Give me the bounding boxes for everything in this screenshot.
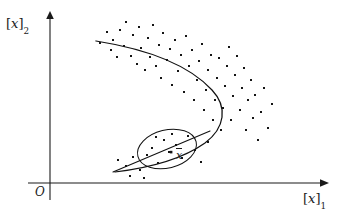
data-point (136, 63, 138, 65)
data-point (216, 77, 218, 79)
data-point (132, 156, 134, 158)
data-point (207, 141, 209, 143)
data-point (191, 49, 193, 51)
data-point (263, 87, 265, 89)
data-point (116, 56, 118, 58)
data-point (132, 34, 134, 36)
data-point (234, 74, 236, 76)
data-point (210, 54, 212, 56)
data-point (119, 29, 121, 31)
data-point (243, 67, 245, 69)
data-point (125, 21, 127, 23)
mean-point-group (170, 151, 173, 154)
y-axis-label: [x]2 (6, 17, 29, 33)
data-point (168, 151, 170, 153)
data-point (271, 103, 273, 105)
data-point (171, 84, 173, 86)
data-point (149, 56, 151, 58)
data-point (117, 159, 119, 161)
data-point (125, 165, 127, 167)
data-point (222, 107, 224, 109)
data-point (220, 129, 222, 131)
data-point (112, 39, 114, 41)
data-point (177, 70, 179, 72)
data-point (205, 89, 207, 91)
data-point (166, 59, 168, 61)
data-point (162, 32, 164, 34)
data-point (218, 57, 220, 59)
x-axis-label-bracket-close: ] (315, 191, 320, 206)
data-point (212, 119, 214, 121)
data-point (236, 55, 238, 57)
data-point (106, 31, 108, 33)
data-point (158, 44, 160, 46)
data-point (160, 77, 162, 79)
data-point (267, 127, 269, 129)
x-axis-label: [x]1 (303, 192, 326, 208)
data-point (183, 91, 185, 93)
data-point (214, 99, 216, 101)
data-point (130, 55, 132, 57)
data-point (174, 39, 176, 41)
data-point (140, 47, 142, 49)
tangent-line (113, 131, 210, 172)
y-axis-arrowhead (46, 11, 54, 19)
data-point (196, 79, 198, 81)
data-points-layer (99, 21, 273, 179)
mean-point-label: x (176, 148, 182, 161)
data-point (99, 42, 101, 44)
data-point (224, 85, 226, 87)
data-point (207, 69, 209, 71)
data-point (123, 45, 125, 47)
data-point (228, 46, 230, 48)
data-point (194, 149, 196, 151)
data-point (175, 144, 177, 146)
data-point (144, 69, 146, 71)
data-point (247, 99, 249, 101)
y-axis-label-bracket-close: ] (18, 16, 23, 31)
data-point (203, 109, 205, 111)
mean-point-marker (170, 151, 173, 154)
data-point (187, 135, 189, 137)
origin-label: O (35, 186, 45, 198)
data-point (254, 94, 256, 96)
data-point (193, 99, 195, 101)
data-point (155, 136, 157, 138)
data-point (151, 147, 153, 149)
data-point (129, 175, 131, 177)
data-point (110, 49, 112, 51)
x-axis-arrowhead (320, 179, 329, 187)
data-point (146, 154, 148, 156)
x-axis-label-subscript: 1 (321, 201, 327, 211)
data-point (230, 119, 232, 121)
data-point (198, 60, 200, 62)
data-point (245, 129, 247, 131)
y-axis-label-subscript: 2 (24, 26, 30, 36)
scatter-plot-svg (0, 0, 345, 213)
data-point (138, 26, 140, 28)
data-point (155, 65, 157, 67)
axes-group (28, 11, 329, 200)
data-point (147, 37, 149, 39)
data-point (139, 169, 141, 171)
data-point (200, 161, 202, 163)
data-point (188, 65, 190, 67)
data-point (241, 87, 243, 89)
data-point (185, 35, 187, 37)
data-point (171, 133, 173, 135)
data-point (250, 79, 252, 81)
data-point (169, 48, 171, 50)
mean-point-label-text: x (176, 148, 182, 161)
data-point (157, 162, 159, 164)
data-point (232, 95, 234, 97)
data-point (163, 139, 165, 141)
data-point (257, 139, 259, 141)
data-point (226, 65, 228, 67)
data-point (252, 117, 254, 119)
data-point (239, 109, 241, 111)
data-point (260, 111, 262, 113)
data-point (152, 24, 154, 26)
data-point (180, 54, 182, 56)
data-point (201, 43, 203, 45)
figure-canvas: [x]2 [x]1 O x (0, 0, 345, 213)
